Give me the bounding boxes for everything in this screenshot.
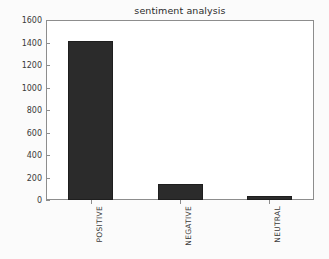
y-axis-tick-label: 0 xyxy=(0,196,42,205)
y-axis-tick-label: 600 xyxy=(0,128,42,137)
y-axis-tick-label: 400 xyxy=(0,151,42,160)
bar-negative xyxy=(158,184,203,200)
y-axis-tick-mark xyxy=(46,65,50,66)
x-axis-tick-label: NEUTRAL xyxy=(273,206,282,243)
chart-title: sentiment analysis xyxy=(46,5,314,16)
bar-positive xyxy=(68,41,113,200)
y-axis-tick-mark xyxy=(46,43,50,44)
y-axis-tick-label: 1400 xyxy=(0,38,42,47)
x-axis-tick-label: POSITIVE xyxy=(95,206,104,242)
bar-neutral xyxy=(247,196,292,200)
y-axis-tick-mark xyxy=(46,20,50,21)
chart-canvas: sentiment analysis 020040060080010001200… xyxy=(0,0,329,259)
y-axis-tick-label: 200 xyxy=(0,173,42,182)
y-axis-tick-label: 1000 xyxy=(0,83,42,92)
y-axis-tick-mark xyxy=(46,88,50,89)
y-axis-tick-label: 800 xyxy=(0,106,42,115)
y-axis-tick-mark xyxy=(46,155,50,156)
x-axis-tick-mark xyxy=(269,200,270,204)
y-axis-tick-mark xyxy=(46,200,50,201)
y-axis-tick-mark xyxy=(46,133,50,134)
y-axis-tick-mark xyxy=(46,110,50,111)
x-axis-tick-mark xyxy=(180,200,181,204)
x-axis-tick-mark xyxy=(91,200,92,204)
y-axis-tick-label: 1600 xyxy=(0,16,42,25)
x-axis-tick-label: NEGATIVE xyxy=(184,206,193,246)
y-axis-tick-mark xyxy=(46,178,50,179)
y-axis-tick-label: 1200 xyxy=(0,61,42,70)
